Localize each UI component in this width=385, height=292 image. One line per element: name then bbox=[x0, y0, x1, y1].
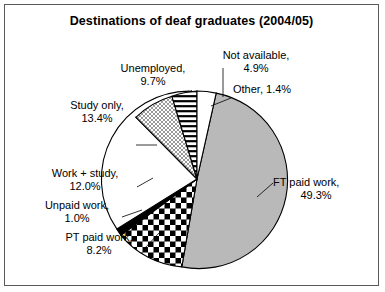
slice-label-other-text: Other, 1.4% bbox=[233, 83, 291, 96]
slice-label-ft-paid-work-value: 49.3% bbox=[273, 189, 359, 202]
chart-frame: Destinations of deaf graduates (2004/05) bbox=[4, 4, 379, 286]
slice-label-study-only-name: Study only, bbox=[55, 99, 139, 112]
slice-label-unemployed-name: Unemployed, bbox=[98, 62, 208, 75]
slice-label-pt-paid-work-value: 8.2% bbox=[53, 244, 145, 257]
slice-label-not-available-value: 4.9% bbox=[201, 62, 311, 75]
slice-label-work-plus-study-value: 12.0% bbox=[33, 180, 137, 193]
slice-label-not-available-name: Not available, bbox=[201, 49, 311, 62]
slice-label-work-plus-study: Work + study, 12.0% bbox=[33, 167, 137, 193]
slice-label-ft-paid-work-name: FT paid work, bbox=[273, 176, 369, 189]
slice-label-study-only: Study only, 13.4% bbox=[55, 99, 139, 125]
slice-label-ft-paid-work: FT paid work, 49.3% bbox=[273, 176, 369, 202]
slice-label-study-only-value: 13.4% bbox=[55, 112, 139, 125]
slice-label-pt-paid-work-name: PT paid work, bbox=[53, 231, 145, 244]
slice-label-unpaid-work: Unpaid work, 1.0% bbox=[33, 199, 121, 225]
slice-label-unemployed-value: 9.7% bbox=[98, 75, 208, 88]
slice-label-work-plus-study-name: Work + study, bbox=[33, 167, 137, 180]
slice-label-unpaid-work-value: 1.0% bbox=[33, 212, 121, 225]
slice-label-other: Other, 1.4% bbox=[233, 83, 291, 96]
slice-label-pt-paid-work: PT paid work, 8.2% bbox=[53, 231, 145, 257]
slice-label-unpaid-work-name: Unpaid work, bbox=[33, 199, 121, 212]
slice-label-unemployed: Unemployed, 9.7% bbox=[98, 62, 208, 88]
slice-label-not-available: Not available, 4.9% bbox=[201, 49, 311, 75]
